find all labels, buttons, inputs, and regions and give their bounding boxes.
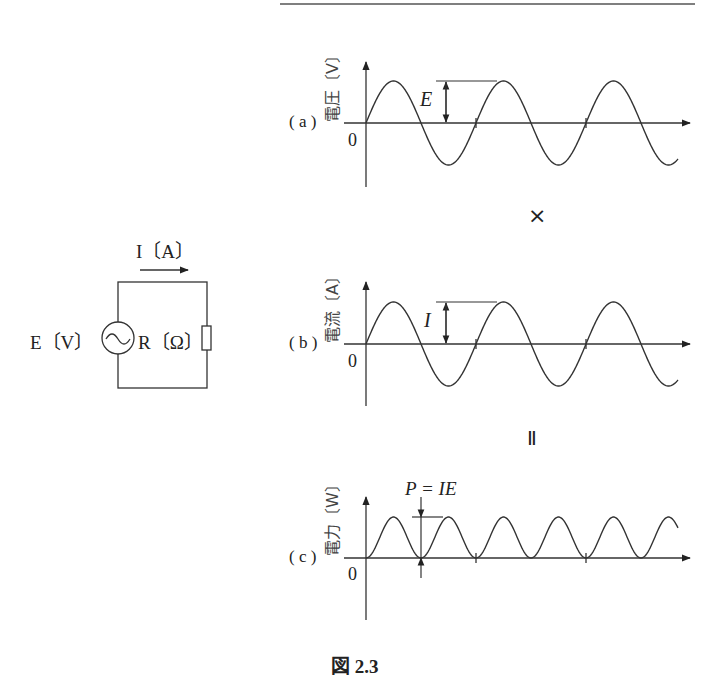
origin-a: 0 — [348, 130, 357, 151]
amplitude-label-p: P = IE — [405, 478, 457, 500]
times-operator: × — [528, 203, 546, 228]
ylabel-b: 電流〔A〕 — [319, 253, 343, 343]
ylabel-c: 電力〔W〕 — [319, 466, 343, 556]
current-label: I〔A〕 — [136, 236, 194, 263]
panel-label-c: ( c ) — [289, 547, 316, 567]
amplitude-label-i: I — [424, 309, 431, 332]
panel-label-b: ( b ) — [289, 333, 317, 353]
figure-caption: 図 2.3 — [331, 651, 379, 678]
ylabel-a: 電圧〔V〕 — [319, 32, 343, 122]
figure-canvas — [0, 0, 715, 688]
source-label: E〔V〕 — [30, 327, 93, 354]
equals-operator: Ⅱ — [527, 426, 537, 450]
power-curve — [366, 517, 678, 558]
panel-label-a: ( a ) — [289, 112, 316, 132]
resistor-icon — [202, 326, 211, 350]
resistor-label: R〔Ω〕 — [138, 327, 203, 354]
amplitude-label-e: E — [420, 88, 432, 111]
origin-b: 0 — [348, 351, 357, 372]
origin-c: 0 — [348, 564, 357, 585]
plots-group — [344, 62, 690, 620]
